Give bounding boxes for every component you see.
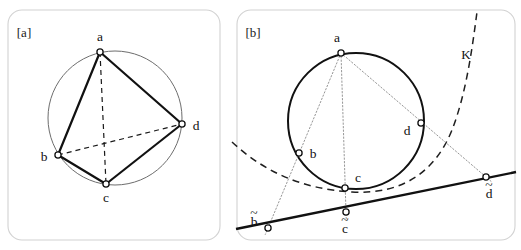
panel-b-label: [b] (245, 25, 260, 40)
label-c: c (355, 170, 361, 185)
label-a: a (334, 30, 340, 45)
point-b (296, 150, 302, 156)
conic-k-label: K (461, 47, 471, 62)
geometry-figure: [a] abcd [b] K abcdb~c~d~ (0, 0, 521, 250)
point-d (418, 120, 424, 126)
label-a: a (97, 29, 103, 44)
point-a (338, 50, 344, 56)
tilde-accent-b-tilde: ~ (250, 205, 257, 220)
panel-a-frame (8, 10, 220, 240)
point-b-tilde (265, 225, 271, 231)
point-a (97, 49, 103, 55)
tilde-accent-c-tilde: ~ (341, 212, 348, 227)
panel-a: [a] abcd (8, 10, 220, 240)
point-d (179, 121, 185, 127)
panel-b: [b] K abcdb~c~d~ (232, 10, 516, 240)
tilde-accent-d-tilde: ~ (485, 177, 492, 192)
point-c (103, 181, 109, 187)
panel-a-label: [a] (17, 25, 31, 40)
panel-b-frame (237, 10, 515, 240)
point-c (342, 185, 348, 191)
figure-root: [a] abcd [b] K abcdb~c~d~ (0, 0, 521, 250)
point-b (55, 152, 61, 158)
label-d: d (404, 123, 411, 138)
label-b: b (310, 146, 317, 161)
label-c: c (103, 190, 109, 205)
label-d: d (193, 118, 200, 133)
label-b: b (41, 149, 48, 164)
